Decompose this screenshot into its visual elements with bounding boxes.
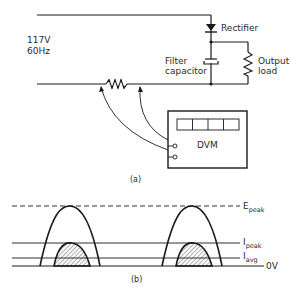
probe-lead-1 [101, 87, 168, 150]
filter-capacitor-label-1: Filter [165, 56, 188, 66]
output-load-label-2: load [258, 66, 277, 76]
output-load-resistor-icon [244, 52, 252, 76]
zero-volt-label: 0V [266, 261, 279, 271]
e-peak-label: Epeak [243, 201, 265, 214]
caption-a: (a) [130, 175, 141, 184]
current-pulse-1 [54, 243, 90, 266]
probe-lead-2 [140, 87, 168, 140]
output-load-label-1: Output [258, 56, 290, 66]
waveform-diagram [12, 206, 264, 266]
current-pulse-2 [176, 243, 212, 266]
dvm-terminal [173, 144, 177, 148]
source-voltage-label: 117V [27, 35, 51, 45]
rectifier-label: Rectifier [221, 23, 259, 33]
dvm-label: DVM [197, 140, 218, 150]
junction-dot [209, 40, 212, 43]
i-peak-label: Ipeak [243, 237, 262, 250]
circuit-diagram [37, 15, 248, 84]
dvm-terminal [173, 155, 177, 159]
caption-b: (b) [131, 275, 142, 284]
diagram-canvas: 117V 60Hz Rectifier Filter capacitor Out… [0, 0, 302, 297]
filter-capacitor-label-2: capacitor [165, 66, 207, 76]
arrow-icon [138, 86, 143, 92]
arrow-icon [99, 86, 104, 92]
source-frequency-label: 60Hz [27, 46, 50, 56]
i-avg-label: Iavg [243, 251, 258, 264]
junction-dot [209, 82, 212, 85]
rectifier-diode-icon [205, 24, 217, 32]
